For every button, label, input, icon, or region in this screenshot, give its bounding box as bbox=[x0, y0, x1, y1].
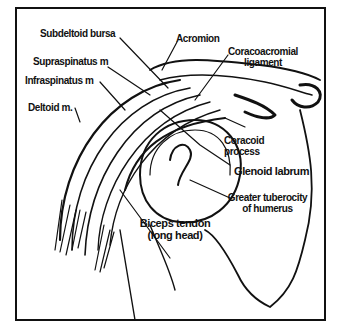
label-line: Biceps tendon bbox=[130, 217, 220, 229]
label-line: ligament bbox=[218, 57, 308, 68]
label-subdeltoid-bursa: Subdeltoid bursa bbox=[40, 28, 115, 39]
label-coracoacromial-ligament: Coracoacromial ligament bbox=[218, 46, 308, 68]
label-coracoid-process: Coracoid process bbox=[224, 135, 264, 157]
label-line: Coracoacromial bbox=[218, 46, 308, 57]
label-acromion: Acromion bbox=[176, 33, 219, 44]
label-supraspinatus: Supraspinatus m bbox=[33, 56, 108, 67]
label-biceps-tendon: Biceps tendon (long head) bbox=[130, 217, 220, 241]
label-infraspinatus: Infraspinatus m bbox=[25, 75, 93, 86]
label-line: process bbox=[224, 146, 264, 157]
label-greater-tuberosity: Greater tuberocity of humerus bbox=[220, 192, 315, 214]
label-line: of humerus bbox=[220, 203, 315, 214]
label-line: (long head) bbox=[130, 229, 220, 241]
label-glenoid-labrum: Glenoid labrum bbox=[234, 166, 309, 177]
label-line: Coracoid bbox=[224, 135, 264, 146]
label-deltoid: Deltoid m. bbox=[28, 102, 72, 113]
label-line: Greater tuberocity bbox=[220, 192, 315, 203]
